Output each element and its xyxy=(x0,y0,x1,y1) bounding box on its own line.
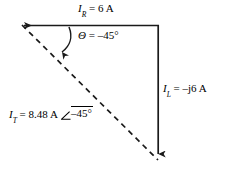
total-current-angle-value: –45° xyxy=(71,106,93,119)
inductive-current-subscript: L xyxy=(167,90,171,99)
phasor-diagram-figure: IR = 6 A Θ = –45° IL = –j6 A IT = 8.48 A… xyxy=(0,0,225,172)
inductive-current-value: –j6 A xyxy=(183,82,207,94)
inductive-current-label: IL = –j6 A xyxy=(163,82,207,97)
resistive-current-value: 6 A xyxy=(98,2,114,14)
total-current-vector xyxy=(22,25,158,160)
resistive-current-subscript: R xyxy=(82,10,87,19)
total-current-label: IT = 8.48 A–45° xyxy=(9,107,93,123)
total-current-angle-group: –45° xyxy=(61,107,93,120)
phase-angle-value: –45° xyxy=(98,29,119,41)
phase-angle-label: Θ = –45° xyxy=(78,29,119,41)
total-current-subscript: T xyxy=(13,116,17,125)
phase-angle-symbol: Θ xyxy=(78,29,86,41)
angle-symbol-icon xyxy=(61,111,71,120)
phase-angle-arc-arrow xyxy=(62,27,71,52)
resistive-current-label: IR = 6 A xyxy=(78,2,114,17)
total-current-value: 8.48 A xyxy=(29,108,58,120)
